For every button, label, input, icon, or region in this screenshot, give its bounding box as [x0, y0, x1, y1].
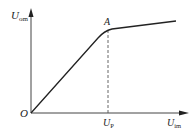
origin-label: O [20, 107, 28, 119]
y-axis-label: Uom [11, 9, 28, 23]
x-axis-arrow-icon [179, 111, 189, 116]
point-a-label: A [103, 16, 111, 27]
y-axis-arrow-icon [29, 8, 34, 17]
up-label: UP [103, 117, 114, 129]
x-axis-label: Uim [167, 117, 181, 129]
characteristic-diagram: Uom A O UP Uim [0, 0, 196, 133]
characteristic-curve [31, 21, 176, 113]
